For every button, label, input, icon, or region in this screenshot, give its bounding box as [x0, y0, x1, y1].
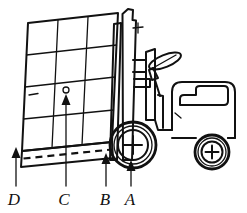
operator-pedal-panel — [158, 95, 163, 128]
forklift-diagram: D C B A — [0, 0, 247, 213]
palletized-load — [21, 13, 118, 167]
callout-label-D: D — [7, 190, 21, 209]
center-of-gravity-marker — [63, 87, 69, 93]
callout-label-C: C — [58, 190, 70, 209]
callout-C-arrowhead — [62, 94, 71, 105]
carriage-lower-step — [134, 79, 150, 87]
rear-wheel — [195, 135, 229, 169]
callout-D-arrowhead — [12, 147, 21, 158]
body-side-detail — [175, 113, 181, 118]
callout-arrow-C — [62, 94, 71, 186]
load-grid-row-1 — [27, 45, 117, 55]
counterweight-body — [172, 82, 235, 138]
diagram-canvas: D C B A — [0, 0, 247, 213]
pallet-fork-dashed-line — [24, 150, 113, 159]
load-inner-tick — [29, 94, 38, 96]
body-outer-shell — [172, 82, 235, 138]
carriage-bracket — [133, 49, 155, 120]
load-grid-row-3 — [24, 110, 114, 119]
operator-seat — [180, 86, 228, 105]
callout-A-arrowhead — [127, 160, 136, 171]
callout-arrow-D — [12, 147, 21, 186]
operator-compartment — [155, 95, 172, 130]
load-grid-row-2 — [25, 77, 115, 87]
callout-label-B: B — [100, 190, 111, 209]
steering-wheel — [147, 49, 183, 96]
pallet-outline — [21, 142, 113, 167]
steering-wheel-spoke — [153, 55, 176, 68]
callout-label-A: A — [124, 190, 136, 209]
